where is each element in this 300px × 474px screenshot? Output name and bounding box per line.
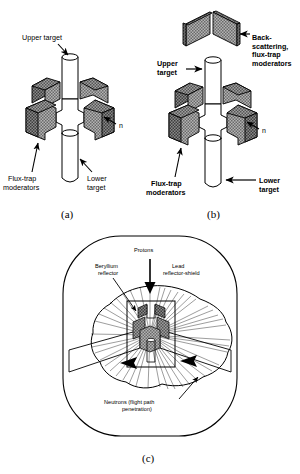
figure-neutron-target-moderators: Upper target n Flux-trap moderators Lowe… (0, 0, 300, 474)
label-protons: Protons (134, 247, 153, 253)
label-beryllium-line1: Beryllium (95, 263, 118, 269)
label-lower-target-b-line1: Lower (259, 176, 280, 185)
label-upper-target-a: Upper target (22, 33, 62, 42)
label-upper-target-b-line2: target (157, 68, 178, 77)
label-backscatter-b-line4: moderators (252, 59, 292, 68)
caption-c: (c) (142, 452, 155, 465)
label-flux-trap-a-line1: Flux-trap (8, 174, 36, 183)
label-neutrons-line1: Neutrons (flight path (104, 399, 154, 405)
label-lower-target-b-line2: target (259, 185, 280, 194)
label-lead-line1: Lead (172, 263, 184, 269)
label-neutrons-line2: penetration) (122, 406, 152, 412)
label-neutron-b: n (262, 127, 266, 134)
label-flux-trap-b-line1: Flux-trap (151, 179, 182, 188)
label-lower-target-a-line2: target (87, 183, 105, 192)
label-neutron-a: n (119, 122, 123, 129)
label-flux-trap-a-line2: moderators (3, 183, 40, 192)
caption-a: (a) (61, 208, 74, 221)
label-lower-target-a-line1: Lower (87, 174, 107, 183)
caption-b: (b) (207, 208, 220, 221)
label-lead-line2: reflector-shield (163, 270, 200, 276)
label-beryllium-line2: reflector (98, 270, 118, 276)
label-flux-trap-b-line2: moderators (146, 188, 186, 197)
